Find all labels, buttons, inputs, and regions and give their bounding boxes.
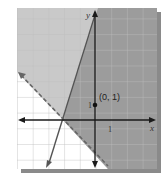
inequality-graph: y x 1 1 (0, 1) [0, 0, 165, 183]
graph-svg: y x 1 1 (0, 1) [0, 0, 165, 183]
x-axis-label: x [149, 123, 154, 133]
x-tick-label: 1 [108, 125, 112, 134]
grid-lines [17, 8, 157, 169]
y-tick-label: 1 [88, 101, 92, 110]
point-marker [93, 103, 98, 108]
y-axis-label: y [85, 10, 90, 20]
point-label: (0, 1) [99, 92, 120, 102]
